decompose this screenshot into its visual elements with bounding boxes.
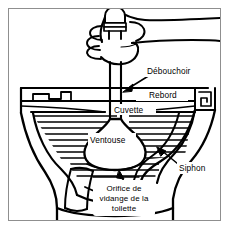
label-siphon: Siphon: [179, 163, 206, 173]
label-ventouse: Ventouse: [90, 135, 126, 145]
label-orifice-line-3: toilette: [112, 204, 137, 213]
toilet-plunger-diagram: Débouchoir Rebord Cuvette Ventouse Sipho…: [9, 9, 220, 220]
label-debouchoir: Débouchoir: [147, 66, 191, 76]
label-rebord: Rebord: [149, 90, 177, 100]
label-cuvette: Cuvette: [114, 105, 144, 115]
label-orifice-line-2: vidange de la: [100, 194, 149, 203]
figure-frame: Débouchoir Rebord Cuvette Ventouse Sipho…: [8, 8, 221, 221]
figure-root: Débouchoir Rebord Cuvette Ventouse Sipho…: [0, 0, 230, 230]
label-orifice-line-1: Orifice de: [106, 184, 142, 193]
